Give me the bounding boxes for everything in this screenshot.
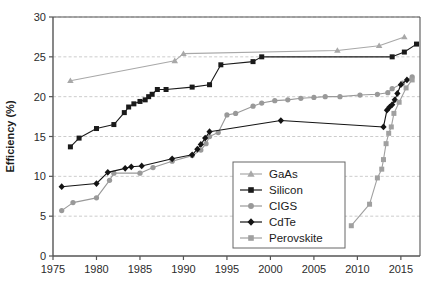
x-tick-label-1980: 1980 [84,263,108,275]
data-point-silicon-3 [111,122,116,127]
data-point-silicon-15 [218,62,223,67]
data-point-perovskite-11 [410,77,415,82]
data-point-silicon-11 [155,87,160,92]
chart-container: 0510152025301975198019851990199520002005… [0,0,435,295]
data-point-perovskite-3 [379,167,384,172]
data-point-perovskite-1 [367,202,372,207]
data-point-cigs-14 [233,111,238,116]
efficiency-line-chart: 0510152025301975198019851990199520002005… [0,0,435,295]
data-point-cdte-5 [139,163,145,170]
data-point-silicon-0 [68,144,73,149]
data-point-perovskite-4 [381,157,386,162]
x-tick-label-1995: 1995 [215,263,239,275]
square-icon [248,235,254,241]
data-point-perovskite-8 [391,111,396,116]
data-point-cigs-10 [203,141,208,146]
data-point-perovskite-9 [397,100,402,105]
legend-label-gaas: GaAs [269,168,298,180]
data-point-cigs-13 [224,112,229,117]
data-point-cigs-25 [385,90,390,95]
series-silicon [68,42,419,150]
series-line-silicon [70,44,416,147]
y-axis-title: Efficiency (%) [4,100,16,172]
data-point-perovskite-5 [384,141,389,146]
data-point-cdte-0 [59,183,65,190]
series-line-perovskite [351,80,412,226]
legend-label-cdte: CdTe [269,216,296,228]
x-tick-label-2000: 2000 [258,263,282,275]
data-point-silicon-19 [402,50,407,55]
data-point-silicon-20 [414,42,419,47]
x-tick-label-2005: 2005 [302,263,326,275]
chart-legend: GaAsSiliconCIGSCdTePerovskite [233,162,345,248]
data-point-cdte-3 [122,165,128,172]
legend-label-perovskite: Perovskite [269,232,323,244]
x-tick-label-1975: 1975 [41,263,65,275]
data-point-perovskite-10 [404,85,409,90]
data-point-cigs-5 [137,171,142,176]
data-point-silicon-16 [251,59,256,64]
y-tick-label-10: 10 [34,170,46,182]
data-point-cigs-26 [390,86,395,91]
data-point-cigs-0 [59,208,64,213]
data-point-silicon-5 [126,105,131,110]
data-point-silicon-1 [77,136,82,141]
data-point-silicon-13 [190,85,195,90]
x-tick-label-1985: 1985 [128,263,152,275]
x-tick-label-2015: 2015 [389,263,413,275]
data-point-cigs-18 [285,97,290,102]
x-tick-label-2010: 2010 [345,263,369,275]
data-point-silicon-10 [150,92,155,97]
y-tick-label-20: 20 [34,91,46,103]
series-line-gaas [70,37,404,81]
data-point-silicon-7 [137,99,142,104]
data-point-silicon-12 [164,87,169,92]
data-point-silicon-4 [122,110,127,115]
square-icon [248,187,254,193]
data-point-perovskite-7 [389,124,394,129]
data-point-cigs-23 [357,92,362,97]
data-point-cdte-13 [380,124,386,131]
data-point-cigs-22 [337,94,342,99]
data-point-cigs-24 [375,92,380,97]
y-tick-label-30: 30 [34,11,46,23]
data-point-cdte-18 [394,90,400,97]
data-point-cigs-2 [94,195,99,200]
data-point-cdte-4 [128,163,134,170]
legend-label-silicon: Silicon [269,184,303,196]
y-tick-label-25: 25 [34,51,46,63]
y-tick-label-5: 5 [40,210,46,222]
data-point-gaas-5 [401,34,408,40]
data-point-cigs-16 [259,100,264,105]
y-tick-label-0: 0 [40,250,46,262]
tick-labels: 0510152025301975198019851990199520002005… [34,11,413,275]
series-gaas [67,34,407,83]
data-point-perovskite-0 [349,223,354,228]
data-point-cigs-1 [70,200,75,205]
data-point-cigs-6 [150,165,155,170]
data-point-perovskite-6 [386,131,391,136]
data-point-silicon-14 [207,82,212,87]
y-axis-label: Efficiency (%) [4,100,16,172]
data-point-cigs-15 [250,104,255,109]
series-perovskite [349,77,415,228]
data-point-silicon-2 [94,126,99,131]
legend-label-cigs: CIGS [269,200,297,212]
y-tick-label-15: 15 [34,131,46,143]
data-point-cigs-20 [311,95,316,100]
data-point-silicon-18 [390,54,395,59]
circle-icon [248,203,254,209]
data-point-cigs-21 [323,94,328,99]
x-tick-label-1990: 1990 [171,263,195,275]
data-point-silicon-6 [131,101,136,106]
data-point-cigs-17 [272,98,277,103]
data-point-cigs-19 [298,96,303,101]
data-point-silicon-17 [259,54,264,59]
data-point-perovskite-2 [375,175,380,180]
data-point-cdte-12 [278,117,284,124]
data-point-cigs-3 [107,178,112,183]
